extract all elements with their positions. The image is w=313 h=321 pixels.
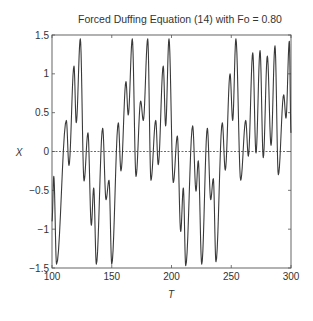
y-tick-label: 1 (43, 68, 49, 79)
chart-title: Forced Duffing Equation (14) with Fo = 0… (78, 13, 282, 25)
x-tick-label: 300 (283, 271, 300, 282)
duffing-chart: Forced Duffing Equation (14) with Fo = 0… (0, 0, 313, 321)
y-tick-label: −1 (38, 224, 50, 235)
y-tick-label: −1.5 (29, 263, 49, 274)
x-tick-label: 150 (103, 271, 120, 282)
y-tick-label: 0 (43, 146, 49, 157)
plot-area: 100150200250300 1.510.50−0.5−1−1.5 (29, 30, 300, 283)
x-tick-label: 250 (223, 271, 240, 282)
y-tick-label: 1.5 (35, 30, 49, 41)
y-axis-label: X (15, 147, 23, 158)
x-axis-label: T (168, 289, 175, 300)
x-tick-label: 200 (163, 271, 180, 282)
trajectory-line (52, 39, 291, 266)
y-tick-label: 0.5 (35, 107, 49, 118)
y-tick-label: −0.5 (29, 185, 49, 196)
